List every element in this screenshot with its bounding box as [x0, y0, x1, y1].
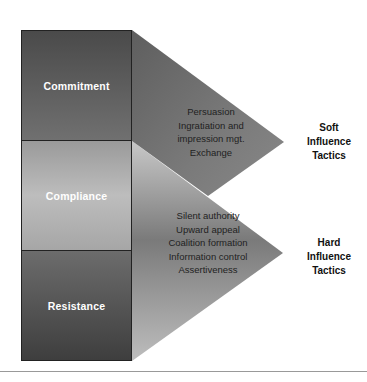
stage-commitment: Commitment — [21, 30, 132, 141]
tactic-item: Assertiveness — [146, 263, 270, 277]
tactic-item: Information control — [146, 250, 270, 264]
stage-compliance: Compliance — [21, 140, 132, 251]
tactic-item: Exchange — [149, 146, 273, 160]
tactic-item: Ingratiation and — [149, 119, 273, 133]
label-line: Influence — [294, 250, 364, 264]
stage-label: Commitment — [43, 80, 109, 92]
label-line: Influence — [294, 135, 364, 149]
label-line: Soft — [294, 121, 364, 135]
tactic-item: Persuasion — [149, 105, 273, 119]
soft-tactics-list: Persuasion Ingratiation and impression m… — [149, 105, 273, 159]
stage-resistance: Resistance — [21, 250, 132, 361]
tactic-item: Silent authority — [146, 209, 270, 223]
label-line: Tactics — [294, 149, 364, 163]
label-line: Tactics — [294, 264, 364, 278]
hard-tactics-list: Silent authority Upward appeal Coalition… — [146, 209, 270, 277]
soft-influence-tactics-label: Soft Influence Tactics — [294, 121, 364, 163]
tactic-item: Coalition formation — [146, 236, 270, 250]
bottom-divider — [0, 371, 367, 372]
tactic-item: impression mgt. — [149, 132, 273, 146]
hard-influence-tactics-label: Hard Influence Tactics — [294, 236, 364, 278]
stage-label: Resistance — [48, 300, 105, 312]
label-line: Hard — [294, 236, 364, 250]
tactic-item: Upward appeal — [146, 223, 270, 237]
stage-label: Compliance — [46, 190, 108, 202]
